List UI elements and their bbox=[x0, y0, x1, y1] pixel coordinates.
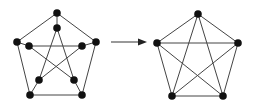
node-left bbox=[153, 39, 161, 47]
edge-outer-left-outer-bottom-left bbox=[17, 42, 30, 95]
node-bottom-left bbox=[168, 92, 176, 100]
node-bottom-right bbox=[219, 92, 227, 100]
edge-outer-top-outer-right bbox=[57, 13, 96, 42]
edge-inner-top-inner-bottom-left bbox=[39, 28, 57, 80]
node-outer-top bbox=[53, 9, 61, 17]
k5-graph bbox=[153, 10, 242, 100]
arrow-head-icon bbox=[138, 39, 147, 46]
diagram-canvas bbox=[0, 0, 256, 108]
node-outer-right bbox=[92, 38, 100, 46]
edge-outer-top-outer-left bbox=[17, 13, 57, 42]
edge-inner-left-inner-bottom-right bbox=[29, 46, 74, 80]
node-inner-right bbox=[78, 42, 86, 50]
edge-top-right bbox=[198, 14, 238, 43]
node-inner-bottom-right bbox=[70, 76, 78, 84]
edge-inner-right-inner-bottom-left bbox=[39, 46, 82, 80]
petersen-graph bbox=[13, 9, 100, 99]
node-top bbox=[194, 10, 202, 18]
node-inner-left bbox=[25, 42, 33, 50]
edge-top-bottom-right bbox=[198, 14, 223, 96]
node-outer-bottom-left bbox=[26, 91, 34, 99]
transform-arrow bbox=[111, 39, 147, 46]
edge-right-bottom-left bbox=[172, 43, 238, 96]
edge-top-bottom-left bbox=[172, 14, 198, 96]
edge-right-bottom-right bbox=[223, 43, 238, 96]
edge-left-bottom-right bbox=[157, 43, 223, 96]
edge-top-left bbox=[157, 14, 198, 43]
node-right bbox=[234, 39, 242, 47]
node-outer-left bbox=[13, 38, 21, 46]
edge-outer-right-outer-bottom-right bbox=[82, 42, 96, 95]
edge-left-bottom-left bbox=[157, 43, 172, 96]
node-inner-top bbox=[53, 24, 61, 32]
node-outer-bottom-right bbox=[78, 91, 86, 99]
node-inner-bottom-left bbox=[35, 76, 43, 84]
